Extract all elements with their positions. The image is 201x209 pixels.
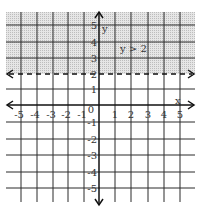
svg-text:5: 5 — [91, 20, 97, 31]
x-axis-label: x — [175, 95, 181, 106]
svg-text:-5: -5 — [14, 109, 24, 120]
svg-text:-1: -1 — [87, 117, 97, 128]
x-axis — [7, 101, 194, 109]
svg-text:-1: -1 — [77, 109, 87, 120]
svg-text:-2: -2 — [61, 109, 71, 120]
svg-text:5: 5 — [177, 109, 183, 120]
y-axis-label: y — [101, 23, 108, 34]
svg-text:-3: -3 — [46, 109, 56, 120]
svg-text:-2: -2 — [87, 134, 97, 145]
svg-text:4: 4 — [91, 37, 97, 48]
shaded-region — [6, 12, 195, 74]
svg-text:4: 4 — [161, 109, 167, 120]
svg-text:2: 2 — [91, 69, 97, 80]
svg-text:3: 3 — [91, 53, 97, 64]
svg-text:-5: -5 — [87, 183, 97, 194]
svg-text:-3: -3 — [87, 150, 97, 161]
y-tick-labels-negative: -1 -2 -3 -4 -5 — [87, 117, 97, 194]
coordinate-plane: -5 -4 -3 -2 -1 1 2 3 4 5 0 1 2 3 4 5 -1 … — [0, 0, 201, 209]
svg-text:-4: -4 — [87, 167, 97, 178]
svg-text:3: 3 — [145, 109, 151, 120]
svg-text:2: 2 — [128, 109, 134, 120]
svg-text:1: 1 — [91, 84, 97, 95]
origin-label: 0 — [88, 104, 94, 115]
inequality-label: y > 2 — [119, 43, 147, 54]
svg-text:1: 1 — [112, 109, 118, 120]
svg-text:-4: -4 — [30, 109, 40, 120]
